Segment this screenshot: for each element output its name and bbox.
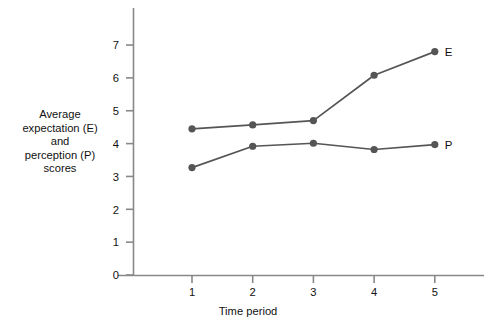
series-end-label-e: E xyxy=(445,46,453,58)
data-point-marker xyxy=(431,141,438,148)
data-point-marker xyxy=(310,117,317,124)
y-tick-label: 0 xyxy=(113,269,119,281)
x-tick-label: 3 xyxy=(310,286,316,298)
x-tick-label: 2 xyxy=(250,286,256,298)
y-tick-label: 1 xyxy=(113,236,119,248)
y-axis-title: Average expectation (E) and perception (… xyxy=(8,108,112,176)
y-tick-label: 6 xyxy=(113,72,119,84)
data-series-layer: EP xyxy=(188,46,452,171)
y-tick-label: 5 xyxy=(113,105,119,117)
y-tick-label: 4 xyxy=(113,138,119,150)
y-tick-label: 2 xyxy=(113,204,119,216)
data-point-marker xyxy=(431,48,438,55)
series-line xyxy=(192,143,435,167)
x-tick-label: 1 xyxy=(189,286,195,298)
y-axis-ticks: 01234567 xyxy=(113,39,134,281)
x-tick-label: 5 xyxy=(432,286,438,298)
y-tick-label: 3 xyxy=(113,171,119,183)
x-tick-label: 4 xyxy=(371,286,377,298)
data-point-marker xyxy=(188,125,195,132)
series-end-label-p: P xyxy=(445,139,453,151)
data-point-marker xyxy=(310,140,317,147)
data-point-marker xyxy=(188,164,195,171)
axes-group xyxy=(118,8,484,276)
data-point-marker xyxy=(249,121,256,128)
x-axis-ticks: 12345 xyxy=(189,276,438,299)
y-tick-label: 7 xyxy=(113,39,119,51)
series-e: E xyxy=(188,46,452,133)
series-p: P xyxy=(188,139,452,171)
line-chart: 01234567 12345 EP Average expectation (E… xyxy=(0,0,484,334)
data-point-marker xyxy=(371,72,378,79)
x-axis-title: Time period xyxy=(219,305,278,317)
data-point-marker xyxy=(249,143,256,150)
data-point-marker xyxy=(371,146,378,153)
